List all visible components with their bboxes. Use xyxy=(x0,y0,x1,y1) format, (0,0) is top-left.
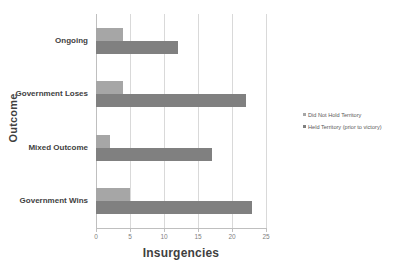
x-axis-line xyxy=(96,228,266,229)
bar xyxy=(96,28,123,41)
tick-mark xyxy=(130,228,131,232)
y-axis-category-label: Government Loses xyxy=(0,89,88,99)
x-tick-label: 25 xyxy=(256,233,276,240)
x-tick-label: 15 xyxy=(188,233,208,240)
legend-label-1: Held Territory (prior to victory) xyxy=(308,123,382,131)
legend-swatch-icon-1 xyxy=(303,125,306,128)
x-tick-label: 20 xyxy=(222,233,242,240)
bar xyxy=(96,201,252,214)
bar xyxy=(96,135,110,148)
y-axis-category-label: Government Wins xyxy=(0,196,88,206)
bar xyxy=(96,41,178,54)
legend-item-1[interactable]: Held Territory (prior to victory) xyxy=(303,123,403,131)
legend-label-0: Did Not Hold Territory xyxy=(308,111,361,119)
tick-mark xyxy=(198,228,199,232)
x-tick-label: 10 xyxy=(154,233,174,240)
x-axis-title: Insurgencies xyxy=(96,246,266,260)
bar-group: Mixed Outcome xyxy=(96,135,266,161)
tick-mark xyxy=(232,228,233,232)
bar-group: Government Loses xyxy=(96,81,266,107)
bar-chart: Outcome Insurgencies 0510152025 OngoingG… xyxy=(0,0,405,267)
bar-group: Government Wins xyxy=(96,188,266,214)
x-tick-label: 5 xyxy=(120,233,140,240)
x-tick-label: 0 xyxy=(86,233,106,240)
bar xyxy=(96,94,246,107)
bar xyxy=(96,148,212,161)
legend-item-0[interactable]: Did Not Hold Territory xyxy=(303,111,403,119)
bar xyxy=(96,81,123,94)
legend-swatch-icon-0 xyxy=(303,113,306,116)
tick-mark xyxy=(96,228,97,232)
y-axis-category-label: Ongoing xyxy=(0,36,88,46)
tick-mark xyxy=(266,228,267,232)
gridline xyxy=(266,14,267,228)
plot-area: 0510152025 OngoingGovernment LosesMixed … xyxy=(96,14,266,228)
bar xyxy=(96,188,130,201)
y-axis-category-label: Mixed Outcome xyxy=(0,143,88,153)
legend: Did Not Hold Territory Held Territory (p… xyxy=(303,111,403,135)
tick-mark xyxy=(164,228,165,232)
bar-group: Ongoing xyxy=(96,28,266,54)
